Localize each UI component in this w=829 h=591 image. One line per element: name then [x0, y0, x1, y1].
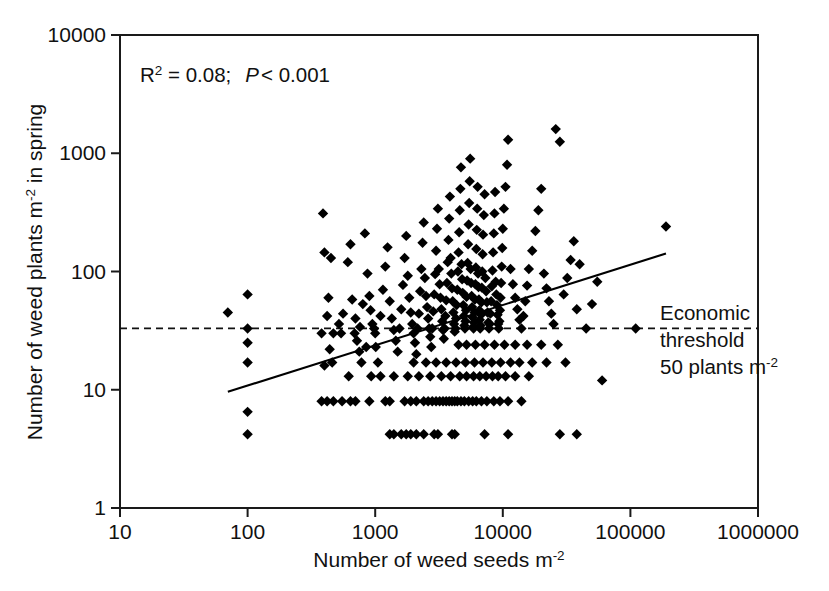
data-point: [454, 227, 464, 237]
chart-canvas: 110100100010000 101001000100001000001000…: [0, 0, 829, 591]
scatter-plot-figure: 110100100010000 101001000100001000001000…: [0, 0, 829, 591]
data-point: [445, 191, 455, 201]
data-point: [356, 357, 366, 367]
data-point: [425, 371, 435, 381]
data-point: [489, 228, 499, 238]
data-point: [414, 308, 424, 318]
data-point: [500, 182, 510, 192]
data-point: [410, 337, 420, 347]
data-point: [323, 293, 333, 303]
data-point: [443, 235, 453, 245]
data-point: [592, 276, 602, 286]
data-point: [496, 261, 506, 271]
data-point: [419, 217, 429, 227]
y-axis-title: Number of weed plants m-2 in spring: [23, 104, 46, 441]
data-point: [497, 243, 507, 253]
threshold-annotation-line3: 50 plants m-2: [660, 355, 778, 378]
data-point: [536, 184, 546, 194]
data-point: [382, 242, 392, 252]
data-point: [479, 189, 489, 199]
data-point: [350, 313, 360, 323]
data-point: [569, 236, 579, 246]
data-point: [508, 279, 518, 289]
data-point: [441, 357, 451, 367]
data-point: [560, 357, 570, 367]
data-point: [461, 340, 471, 350]
data-point: [345, 239, 355, 249]
data-point: [558, 289, 568, 299]
data-point: [503, 429, 513, 439]
data-point: [347, 294, 357, 304]
data-point: [503, 396, 513, 406]
x-tick-label: 1000: [352, 520, 399, 543]
data-point: [336, 328, 346, 338]
p-label: P: [245, 63, 259, 86]
y-axis-title-text-a: Number of weed plants m: [23, 201, 46, 440]
data-point: [489, 208, 499, 218]
data-point: [479, 340, 489, 350]
y-axis-ticks: 110100100010000: [48, 23, 120, 519]
data-point: [416, 264, 426, 274]
x-tick-label: 10: [108, 520, 131, 543]
data-point: [408, 357, 418, 367]
data-point: [661, 221, 671, 231]
data-point: [587, 299, 597, 309]
data-point: [597, 375, 607, 385]
data-point: [401, 231, 411, 241]
data-point: [445, 371, 455, 381]
y-tick-label: 1000: [59, 141, 106, 164]
data-point: [242, 407, 252, 417]
data-point: [516, 396, 526, 406]
data-point: [242, 337, 252, 347]
data-point: [344, 371, 354, 381]
data-point: [489, 340, 499, 350]
data-point: [530, 226, 540, 236]
data-point: [479, 210, 489, 220]
data-point: [541, 357, 551, 367]
data-point: [505, 264, 515, 274]
data-point: [499, 340, 509, 350]
data-point: [539, 268, 549, 278]
y-tick-label: 10000: [48, 23, 106, 46]
data-point: [465, 153, 475, 163]
data-point: [242, 357, 252, 367]
data-point: [399, 253, 409, 263]
data-point: [516, 323, 526, 333]
data-point: [337, 396, 347, 406]
threshold-annotation-line1: Economic: [660, 301, 750, 324]
data-point: [242, 323, 252, 333]
data-point: [325, 344, 335, 354]
data-point: [472, 203, 482, 213]
data-point: [572, 304, 582, 314]
data-point: [490, 187, 500, 197]
data-point: [522, 340, 532, 350]
data-point: [420, 273, 430, 283]
data-point: [366, 371, 376, 381]
data-point: [389, 371, 399, 381]
data-points-layer: [223, 124, 672, 440]
data-point: [527, 245, 537, 255]
r2-value: = 0.08;: [162, 63, 231, 86]
x-axis-title-text: Number of weed seeds m: [313, 548, 552, 571]
data-point: [572, 429, 582, 439]
data-point: [536, 340, 546, 350]
data-point: [398, 280, 408, 290]
data-point: [470, 340, 480, 350]
r2-label: R: [140, 63, 155, 86]
x-axis-title: Number of weed seeds m-2: [313, 548, 564, 571]
data-point: [488, 247, 498, 257]
data-point: [512, 304, 522, 314]
data-point: [553, 340, 563, 350]
data-point: [510, 371, 520, 381]
data-point: [364, 396, 374, 406]
data-point: [456, 162, 466, 172]
data-point: [403, 371, 413, 381]
data-point: [338, 308, 348, 318]
data-point: [223, 307, 233, 317]
data-point: [316, 328, 326, 338]
x-axis-title-superscript: -2: [553, 548, 565, 563]
data-point: [318, 208, 328, 218]
data-point: [565, 255, 575, 265]
data-point: [451, 357, 461, 367]
data-point: [417, 238, 427, 248]
